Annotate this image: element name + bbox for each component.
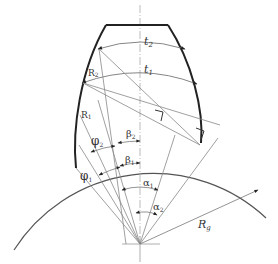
tooth-geometry-diagram: t2 t1 R2 R1 φ2 φ1 β2 β1 α1 α2 Rg	[0, 0, 278, 264]
beta2-label: β2	[126, 128, 136, 140]
phi2-label: φ2	[91, 134, 103, 148]
diagram-svg: t2 t1 R2 R1 φ2 φ1 β2 β1 α1 α2 Rg	[0, 0, 278, 264]
alpha2-arc	[136, 212, 157, 215]
right-angle-mark-1	[155, 110, 163, 121]
r1-label: R1	[81, 110, 92, 120]
rg-radius-line	[140, 190, 258, 244]
beta2-arc	[118, 141, 140, 143]
phi1-arc	[99, 167, 120, 175]
rg-label: Rg	[197, 218, 211, 232]
alpha2-label: α2	[153, 201, 164, 213]
line-c	[83, 83, 200, 145]
right-angle-mark-2	[196, 128, 204, 140]
line-a	[99, 49, 200, 145]
t1-dimension-arc	[82, 73, 197, 84]
phi1-label: φ1	[80, 169, 92, 183]
t2-label: t2	[144, 35, 153, 49]
line-h	[98, 100, 140, 244]
t2-dimension-arc	[98, 42, 185, 49]
r2-label: R2	[88, 68, 99, 78]
alpha1-label: α1	[143, 177, 154, 189]
t1-label: t1	[144, 63, 153, 77]
beta1-label: β1	[125, 154, 135, 166]
